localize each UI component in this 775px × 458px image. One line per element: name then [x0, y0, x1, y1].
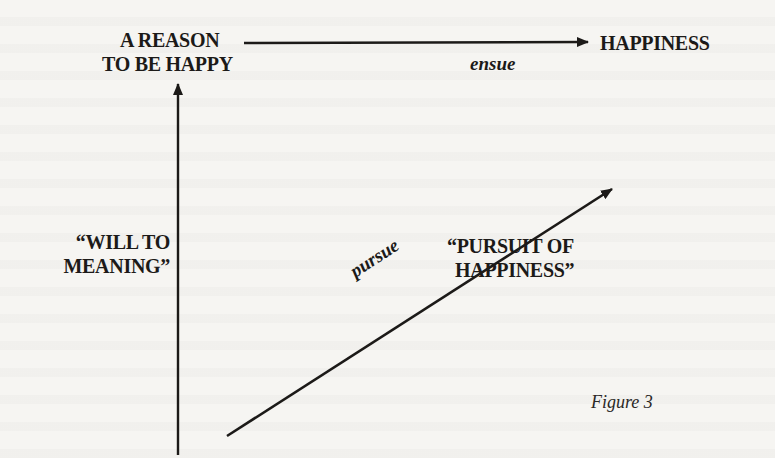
reason-line-1: A REASON [118, 28, 258, 52]
ensue-label: ensue [470, 53, 515, 75]
will-to-meaning-line-2: MEANING” [44, 254, 170, 278]
ensue-arrow [244, 42, 588, 43]
reason-node: A REASON TO BE HAPPY [118, 28, 258, 76]
figure-caption: Figure 3 [591, 392, 653, 413]
pursuit-line-2: HAPPINESS” [455, 258, 574, 282]
pursuit-of-happiness-node: “PURSUIT OF HAPPINESS” [447, 234, 574, 282]
happiness-node: HAPPINESS [600, 31, 710, 55]
pursuit-line-1: “PURSUIT OF [447, 234, 574, 258]
will-to-meaning-node: “WILL TO MEANING” [44, 230, 170, 278]
pursue-arrow [227, 189, 612, 436]
will-to-meaning-line-1: “WILL TO [44, 230, 170, 254]
reason-line-2: TO BE HAPPY [102, 52, 258, 76]
